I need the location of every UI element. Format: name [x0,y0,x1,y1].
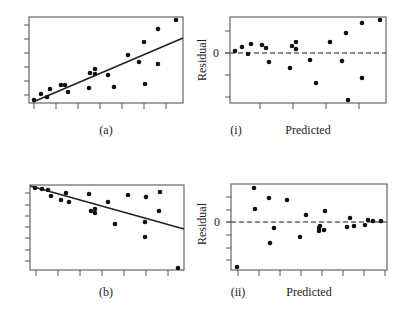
data-point [93,211,98,216]
x-axis-label-ii: Predicted [286,285,331,299]
data-point [106,73,111,78]
panel-label-b: (b) [99,285,113,299]
data-point [66,90,71,95]
data-point [87,192,92,197]
data-point [360,21,365,26]
panel-label-a: (a) [99,123,112,137]
data-point [112,85,117,90]
data-point [348,216,353,221]
data-point [290,44,295,49]
panel-label-i: (i) [230,123,241,137]
data-point [246,52,251,57]
data-point [249,42,254,47]
data-point [40,187,45,192]
data-point [233,49,238,54]
data-point [298,235,303,240]
data-point [363,223,368,228]
x-axis-label-i: Predicted [285,123,330,137]
data-point [267,196,272,201]
data-point [366,218,371,223]
data-point [253,207,258,212]
data-point [49,194,54,199]
data-point [158,190,163,195]
plot-frame-3 [231,184,387,270]
data-point [45,95,50,100]
data-point [252,186,257,191]
plot-frame-2 [30,185,184,270]
data-point [126,193,131,198]
data-point [322,228,327,233]
data-point [93,72,98,77]
data-point [323,209,328,214]
data-point [67,200,72,205]
data-point [33,186,38,191]
zero-tick-label-i: 0 [213,46,219,60]
data-point [345,225,350,230]
data-point [340,59,345,64]
data-point [371,219,376,224]
y-axis-label-i: Residual [195,38,209,81]
data-point [268,241,273,246]
data-point [32,98,37,103]
figure-canvas: (a) (i) Predicted Residual 0 (b) (ii) Pr… [0,0,407,314]
data-point [143,220,148,225]
data-point [93,67,98,72]
data-point [318,224,323,229]
data-point [378,18,383,23]
data-point [126,53,131,58]
data-point [352,224,357,229]
data-point [156,62,161,67]
data-point [294,47,299,52]
data-point [264,46,269,51]
panel-label-ii: (ii) [231,285,246,299]
data-point [89,209,94,214]
data-point [157,209,162,214]
data-point [304,213,309,218]
data-point [174,18,179,23]
data-point [346,98,351,103]
data-point [87,86,92,91]
data-point [285,198,290,203]
data-point [59,83,64,88]
data-point [39,92,44,97]
data-point [144,195,149,200]
data-point [235,265,240,270]
data-point [48,87,53,92]
data-point [344,31,349,36]
data-point [137,60,142,65]
data-point [314,81,319,86]
data-point [379,219,384,224]
data-point [308,58,313,63]
data-point [317,229,322,234]
data-point [142,40,147,45]
data-point [64,191,69,196]
data-point [143,82,148,87]
data-point [63,83,68,88]
zero-tick-label-ii: 0 [214,215,220,229]
data-point [360,76,365,81]
data-point [267,60,272,65]
data-point [106,200,111,205]
data-point [46,188,51,193]
data-point [260,43,265,48]
regression-line [33,38,183,102]
data-point [294,40,299,45]
data-point [240,45,245,50]
data-point [88,71,93,76]
data-point [156,27,161,32]
data-point [176,266,181,271]
data-point [59,198,64,203]
data-point [328,40,333,45]
data-point [93,207,98,212]
data-point [288,66,293,71]
data-point [113,222,118,227]
data-point [272,226,277,231]
data-point [143,235,148,240]
y-axis-label-ii: Residual [195,202,209,245]
